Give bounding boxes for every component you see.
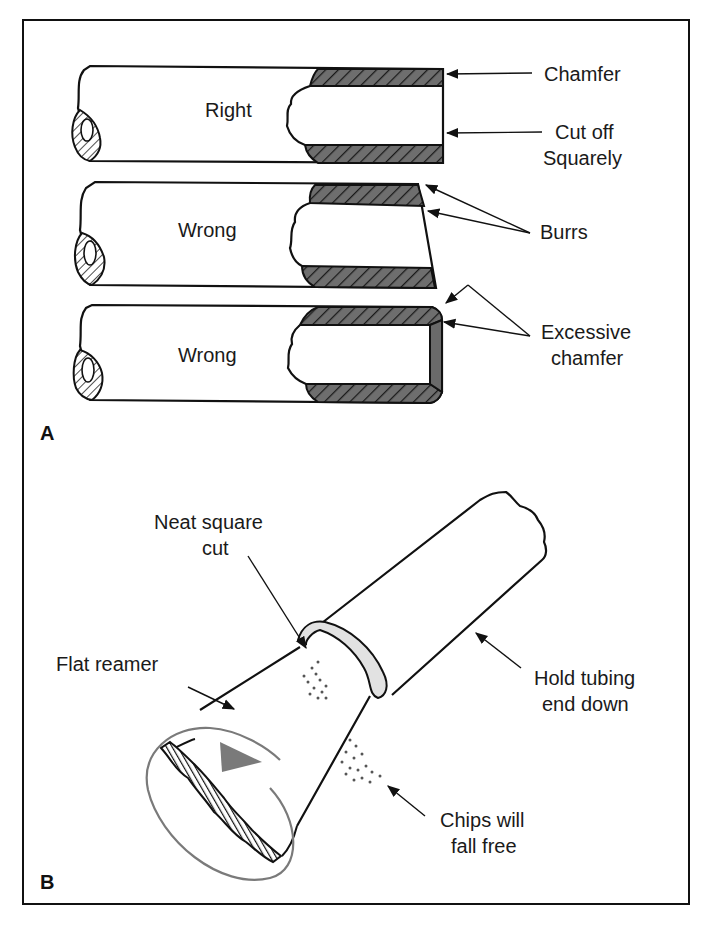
tubing xyxy=(318,492,546,695)
pipe-label-wrong-2: Wrong xyxy=(178,343,237,367)
flat-reamer xyxy=(147,647,370,880)
pipe-label-wrong-1: Wrong xyxy=(178,218,237,242)
panel-letter-a: A xyxy=(40,422,54,445)
callout-excessive-line1: Excessive xyxy=(541,320,631,344)
callout-burrs: Burrs xyxy=(540,220,588,244)
callout-cut-off-line1: Cut off xyxy=(555,120,614,144)
pipe-wrong-excessive-chamfer xyxy=(74,305,442,403)
callout-cut-off-line2: Squarely xyxy=(543,146,622,170)
callout-chamfer: Chamfer xyxy=(544,62,621,86)
pipe-wrong-burrs xyxy=(75,182,436,288)
callout-chips-line1: Chips will xyxy=(440,808,524,832)
panel-letter-b: B xyxy=(40,871,54,894)
callout-excessive-line2: chamfer xyxy=(551,346,623,370)
callout-chips-line2: fall free xyxy=(451,834,517,858)
callout-flat-reamer: Flat reamer xyxy=(56,652,158,676)
callout-neat-line1: Neat square xyxy=(154,510,263,534)
callout-neat-line2: cut xyxy=(202,536,229,560)
callout-hold-line1: Hold tubing xyxy=(534,666,635,690)
pipe-label-right: Right xyxy=(205,98,252,122)
pipe-right xyxy=(72,66,443,163)
callout-hold-line2: end down xyxy=(542,692,629,716)
